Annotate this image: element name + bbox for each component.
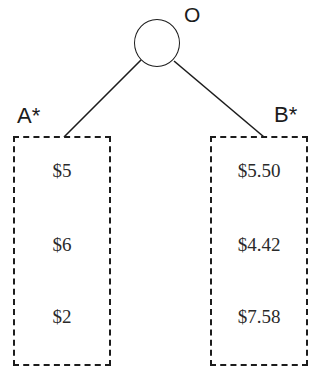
root-node-label: O	[184, 3, 200, 27]
payoff-b-1: $5.50	[210, 160, 308, 182]
edge-to-a	[64, 60, 141, 137]
payoff-a-1: $5	[13, 160, 111, 182]
information-set-label-a: A*	[17, 104, 40, 128]
payoff-b-2: $4.42	[210, 234, 308, 256]
root-node-circle	[134, 19, 180, 67]
payoff-a-2: $6	[13, 234, 111, 256]
edge-to-b	[174, 61, 264, 137]
information-set-label-b: B*	[274, 103, 297, 127]
diagram-canvas: O A* $5 $6 $2 B* $5.50 $4.42 $7.58	[0, 0, 324, 383]
payoff-b-3: $7.58	[210, 306, 308, 328]
payoff-a-3: $2	[13, 306, 111, 328]
